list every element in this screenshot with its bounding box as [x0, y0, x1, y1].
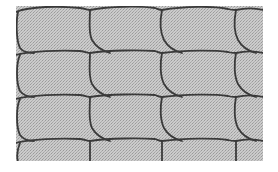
scale-pattern-svg: [0, 0, 278, 172]
scale-pattern-figure: [0, 0, 278, 172]
